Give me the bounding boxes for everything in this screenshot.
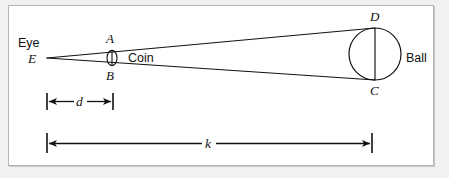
ball-top-label: D [369, 9, 380, 24]
coin-bottom-label: B [106, 68, 114, 83]
coin-label: Coin [128, 51, 154, 65]
sight-ray-lower [47, 58, 375, 80]
dimension-d-label: d [76, 94, 83, 109]
figure-root: Eye E A B Coin D C Ball d k [0, 0, 449, 178]
sight-ray-upper [47, 28, 375, 58]
eye-point-label: E [27, 51, 37, 66]
coin-top-label: A [105, 31, 114, 46]
dimension-k-label: k [205, 136, 212, 151]
ball-label: Ball [406, 51, 427, 65]
ball-bottom-label: C [370, 83, 379, 98]
optics-diagram: Eye E A B Coin D C Ball d k [0, 0, 449, 178]
eye-label: Eye [18, 36, 40, 50]
